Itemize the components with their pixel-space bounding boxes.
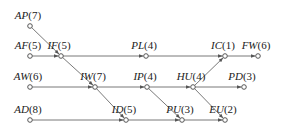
node-label-pl: PL(4) [130, 39, 157, 52]
node-label-pu: PU(3) [165, 103, 194, 116]
node-iw [93, 85, 98, 90]
node-label-ap: AP(7) [14, 9, 42, 22]
node-ip [145, 85, 150, 90]
node-label-ic: IC(1) [210, 39, 235, 52]
node-pl [144, 54, 149, 59]
nodes: AP(7)AF(5)IF(5)PL(4)IC(1)FW(6)AW(6)IW(7)… [13, 9, 271, 122]
node-label-aw: AW(6) [13, 70, 43, 83]
node-fw [256, 54, 261, 59]
node-label-fw: FW(6) [241, 39, 271, 52]
node-id [124, 118, 129, 123]
node-label-af: AF(5) [14, 39, 42, 52]
node-label-hu: HU(4) [176, 70, 206, 83]
node-pd [242, 85, 247, 90]
node-pu [180, 118, 185, 123]
node-eu [223, 118, 228, 123]
node-label-pd: PD(3) [227, 70, 256, 83]
node-label-id: ID(5) [111, 103, 137, 116]
node-label-if: IF(5) [46, 39, 71, 52]
node-aw [28, 85, 33, 90]
node-ap [28, 24, 33, 29]
node-ic [223, 54, 228, 59]
node-label-eu: EU(2) [208, 103, 237, 116]
node-ad [28, 118, 33, 123]
node-label-ip: IP(4) [132, 70, 157, 83]
node-if [59, 54, 64, 59]
node-label-ad: AD(8) [13, 103, 42, 116]
node-hu [191, 85, 196, 90]
node-af [28, 54, 33, 59]
activity-network-diagram: AP(7)AF(5)IF(5)PL(4)IC(1)FW(6)AW(6)IW(7)… [0, 0, 289, 129]
node-label-iw: IW(7) [79, 70, 106, 83]
